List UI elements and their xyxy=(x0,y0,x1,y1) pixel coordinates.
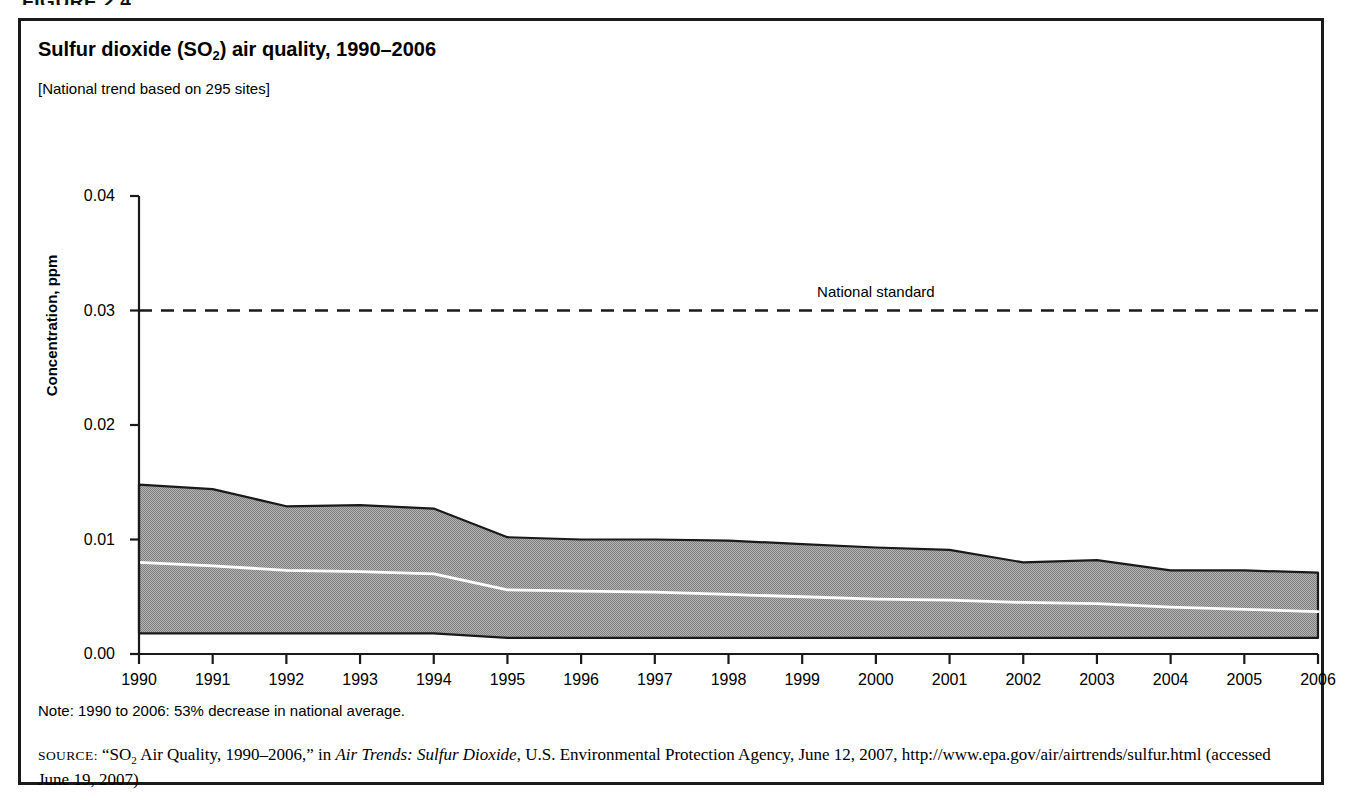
y-axis-tick-label: 0.00 xyxy=(59,645,115,663)
x-axis-tick-label: 1995 xyxy=(490,671,526,689)
y-axis-tick-label: 0.04 xyxy=(59,187,115,205)
y-axis-tick-label: 0.03 xyxy=(59,302,115,320)
figure-running-head: FIGURE 2.4 xyxy=(22,0,131,5)
x-axis-tick-label: 2004 xyxy=(1153,671,1189,689)
source-subscript: 2 xyxy=(131,754,137,766)
x-axis-tick-label: 1994 xyxy=(416,671,452,689)
source-publication-title: Air Trends: Sulfur Dioxide xyxy=(335,745,516,764)
x-axis-tick-label: 1997 xyxy=(637,671,673,689)
x-axis-tick-label: 2006 xyxy=(1300,671,1336,689)
y-axis-title: Concentration, ppm xyxy=(43,206,60,446)
y-axis-tick-label: 0.01 xyxy=(59,531,115,549)
plot-area: Concentration, ppm 0.000.010.020.030.04 … xyxy=(21,21,1321,721)
figure-border-box: Sulfur dioxide (SO2) air quality, 1990–2… xyxy=(18,18,1324,785)
x-axis-tick-label: 1993 xyxy=(342,671,378,689)
x-axis-tick-label: 1992 xyxy=(269,671,305,689)
x-axis-tick-label: 1996 xyxy=(563,671,599,689)
concentration-band xyxy=(139,485,1318,638)
source-text-1: “SO xyxy=(102,745,131,764)
y-axis-tick-labels: 0.000.010.020.030.04 xyxy=(59,21,115,721)
national-standard-label: National standard xyxy=(817,283,935,300)
x-axis-tick-label: 1998 xyxy=(711,671,747,689)
x-axis-tick-label: 2001 xyxy=(932,671,968,689)
chart-source: SOURCE: “SO2 Air Quality, 1990–2006,” in… xyxy=(38,743,1293,792)
x-axis-tick-label: 2002 xyxy=(1005,671,1041,689)
y-axis-tick-label: 0.02 xyxy=(59,416,115,434)
x-axis-tick-label: 1991 xyxy=(195,671,231,689)
figure-root: FIGURE 2.4 Sulfur dioxide (SO2) air qual… xyxy=(0,0,1348,811)
x-axis-tick-label: 2000 xyxy=(858,671,894,689)
chart-note: Note: 1990 to 2006: 53% decrease in nati… xyxy=(38,702,405,719)
x-axis-tick-label: 2003 xyxy=(1079,671,1115,689)
x-axis-tick-label: 1999 xyxy=(784,671,820,689)
source-label: SOURCE: xyxy=(38,748,98,763)
source-text-2: Air Quality, 1990–2006,” in xyxy=(137,745,336,764)
chart-canvas xyxy=(21,21,1321,721)
x-axis-tick-label: 1990 xyxy=(121,671,157,689)
x-axis-tick-label: 2005 xyxy=(1227,671,1263,689)
